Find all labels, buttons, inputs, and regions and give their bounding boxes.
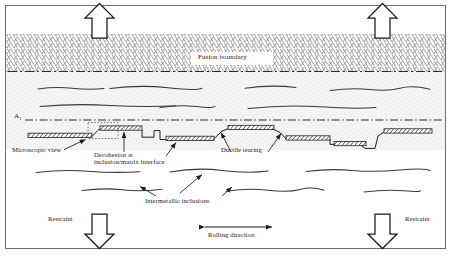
decohesion-label-line1: Decohesion at: [94, 151, 133, 158]
a1-line-label: A1: [14, 113, 22, 122]
a1-line-label-subscript: 1: [19, 116, 21, 121]
microscopic-view-label: Microscopic view: [12, 146, 61, 153]
decohesion-label: Decohesion atinclusion/matrix interface: [94, 151, 190, 166]
decohesion-label-line2: inclusion/matrix interface: [94, 158, 165, 165]
restraint-label-left: Restraint: [48, 215, 73, 222]
restraint-label-right: Restraint: [405, 215, 430, 222]
rolling-direction-label: Rolling direction: [208, 231, 255, 238]
figure-root: Fusion boundary A1 Microscopic view Deco…: [0, 0, 451, 259]
fusion-boundary-label: Fusion boundary: [198, 54, 247, 62]
ductile-tearing-label: Ductile tearing: [221, 146, 262, 153]
intermetallic-inclusions-label: Intermetallic inclusions: [145, 197, 209, 204]
